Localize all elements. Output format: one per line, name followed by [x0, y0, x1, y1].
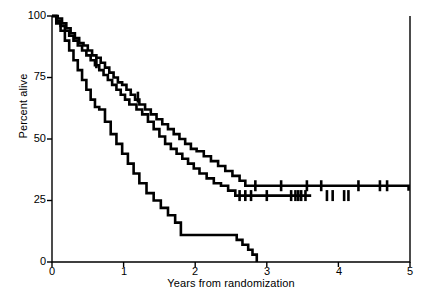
survival-chart: Percent alive 100 75 50 25 0 0 1 2 3 4 5…: [0, 0, 425, 295]
curve-lower: [52, 16, 257, 262]
survival-curves: [52, 16, 409, 262]
curve-upper: [52, 16, 409, 191]
curve-middle: [52, 16, 311, 196]
axis-frame: [52, 16, 410, 262]
plot-area: [0, 0, 425, 295]
axis-ticks: [47, 16, 410, 267]
